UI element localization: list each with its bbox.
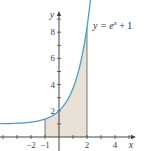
x-tick-label: −2	[26, 140, 36, 150]
y-tick-label: 2	[51, 106, 56, 116]
x-axis-label: x	[128, 139, 134, 150]
curve-equation-label: y = ex + 1	[92, 19, 132, 31]
equation-prefix: y = e	[92, 20, 114, 31]
x-tick-label: 2	[85, 140, 90, 150]
y-axis-label: y	[49, 9, 55, 20]
y-tick-label: 8	[51, 27, 56, 37]
x-tick-label: 4	[113, 140, 118, 150]
y-tick-label: 6	[51, 53, 56, 63]
y-tick-labels: 2468	[51, 27, 56, 116]
chart: −2−124 2468 x y y = ex + 1	[0, 0, 144, 151]
equation-suffix: + 1	[117, 20, 133, 31]
y-axis-arrow-icon	[57, 11, 61, 16]
x-tick-labels: −2−124	[26, 140, 118, 150]
x-tick-label: −1	[40, 140, 50, 150]
y-tick-label: 4	[51, 80, 56, 90]
